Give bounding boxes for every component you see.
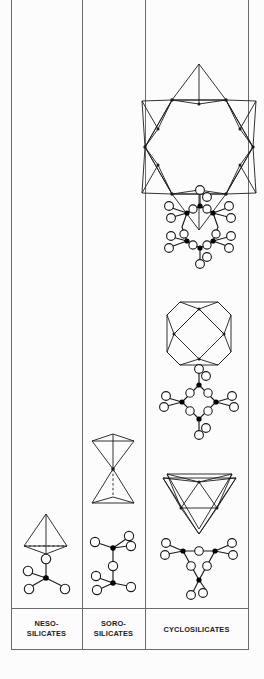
cyclo-label: CYCLOSILICATES — [163, 625, 229, 634]
soro-label-line2: SILICATES — [94, 629, 133, 638]
soro-label-line1: SORO- — [101, 619, 126, 628]
double-tetrahedron-vertices — [111, 467, 115, 471]
canvas-background — [0, 0, 264, 679]
si2o7-bridging-oxygen — [108, 561, 117, 570]
neso-label-line2: SILICATES — [27, 629, 66, 638]
neso-label-line1: NESO- — [34, 619, 59, 628]
figure-canvas: NESO- SILICATES SORO- SILICATES CYCLOSIL… — [0, 0, 264, 679]
silicate-classification-figure: NESO- SILICATES SORO- SILICATES CYCLOSIL… — [0, 0, 264, 679]
sio4-silicon-atom — [43, 575, 49, 581]
